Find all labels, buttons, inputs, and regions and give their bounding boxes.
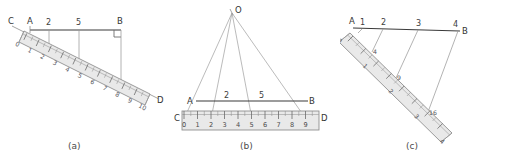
label-point-b-a: B [117,16,123,26]
panel-c: 0 1 2 3 4 4 9 16 A B 1 2 3 4 (c) [340,0,510,160]
ruler-number-a-7: 7 [102,84,109,92]
label-mark-16-c: 16 [429,109,437,116]
ray-o-to-5-b [232,13,252,119]
label-point-a-b: A [187,96,193,106]
label-point-c-a: C [8,16,14,26]
ruler-number-b-4: 4 [236,121,240,129]
ruler-number-b-5: 5 [249,121,253,129]
projection-1-c [358,29,362,33]
ruler-number-a-10: 10 [138,102,148,112]
ruler-number-b-9: 9 [303,121,307,129]
label-mark-9-c: 9 [397,74,401,81]
label-point-c-b: C [174,113,180,123]
label-point-a-a: A [27,16,33,26]
ruler-number-a-8: 8 [114,90,121,98]
ruler-number-b-2: 2 [209,121,213,129]
label-division-2-b: 2 [224,91,229,100]
ruler-number-b-7: 7 [276,121,280,129]
ruler-axis-left-a [12,26,24,32]
panel-a: 0 1 2 3 4 5 6 7 8 9 10 C A B D 2 5 (a) [0,0,170,160]
ruler-a[interactable]: 0 1 2 3 4 5 6 7 8 9 10 [12,26,158,112]
label-point-b-c: B [462,26,468,36]
ruler-inner-edge-c [348,35,450,135]
ruler-number-b-8: 8 [290,121,294,129]
label-division-1-c: 1 [360,18,365,27]
projection-3-c [396,30,418,78]
label-division-2-c: 2 [381,18,386,27]
ruler-number-b-6: 6 [263,121,267,129]
ruler-number-a-0: 0 [14,40,21,48]
label-division-4-c: 4 [453,20,458,29]
label-division-5-a: 5 [76,18,81,27]
projection-4-c [428,31,458,112]
ruler-number-b-1: 1 [195,121,199,129]
caption-a: (a) [68,141,81,151]
caption-c: (c) [406,141,418,151]
ruler-number-a-9: 9 [127,96,134,104]
ray-o-to-2-b [211,13,232,119]
label-point-b-b: B [309,96,315,106]
ruler-number-a-1: 1 [27,46,34,54]
segment-ab-c [353,28,460,31]
ruler-b[interactable]: 0 1 2 3 4 5 6 7 8 9 [182,111,319,130]
ray-o-to-9-b [232,13,306,119]
label-mark-4-c: 4 [373,48,377,55]
rays-from-o-b [184,13,306,119]
label-point-d-b: D [321,113,328,123]
caption-b: (b) [240,141,253,151]
ruler-number-a-5: 5 [77,71,84,79]
ruler-inner-edge-a [23,34,149,97]
ruler-body-c [340,33,452,142]
label-division-3-c: 3 [416,19,421,28]
ruler-number-a-6: 6 [89,78,96,86]
ruler-number-b-3: 3 [222,121,226,129]
right-angle-marker-a [114,30,121,37]
ruler-number-a-3: 3 [52,59,59,67]
geometry-figure: 0 1 2 3 4 5 6 7 8 9 10 C A B D 2 5 (a) [0,0,510,160]
label-point-o-b: O [235,5,242,15]
label-division-5-b: 5 [259,91,264,100]
panel-b: O [170,0,340,160]
ruler-numbers-a: 0 1 2 3 4 5 6 7 8 9 10 [14,40,148,112]
label-point-d-a: D [157,95,164,105]
ruler-number-b-0: 0 [182,121,186,129]
ruler-c[interactable]: 0 1 2 3 4 [340,33,452,145]
label-point-a-c: A [349,16,355,26]
label-division-2-a: 2 [46,18,51,27]
ruler-number-a-4: 4 [64,65,71,73]
ruler-number-a-2: 2 [39,52,46,60]
